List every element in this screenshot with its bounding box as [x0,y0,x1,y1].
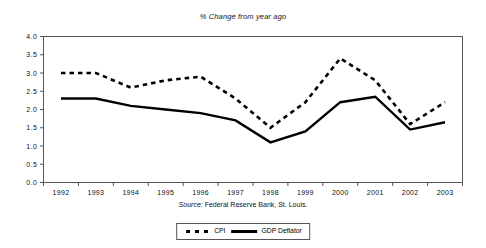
y-axis-tick-label: 2.5 [26,88,37,95]
plot-area: 0.00.51.01.52.02.53.03.54.01992199319941… [0,0,486,200]
x-axis-tick-label: 1992 [53,189,70,196]
x-axis-tick-label: 1995 [157,189,174,196]
legend-label-cpi: CPI [214,228,225,235]
y-axis-tick-label: 3.0 [26,70,37,77]
y-axis-tick-label: 3.5 [26,51,37,58]
source-label: Source: [179,201,203,208]
y-axis-tick-label: 0.5 [26,161,37,168]
legend-label-gdp-deflator: GDP Deflator [262,228,302,235]
x-axis-tick-label: 2002 [402,189,419,196]
x-axis-tick-label: 2000 [332,189,349,196]
source-note: Source: Federal Reserve Bank, St. Louis. [0,201,486,208]
dashed-line-swatch-icon [184,230,210,233]
y-axis-tick-label: 4.0 [26,33,37,40]
legend-entry-cpi: CPI [184,228,225,235]
y-axis-tick-label: 2.0 [26,106,37,113]
x-axis-tick-label: 2003 [437,189,454,196]
legend-entry-gdp-deflator: GDP Deflator [232,228,302,235]
solid-line-swatch-icon [232,230,258,233]
chart-figure: % Change from year ago 0.00.51.01.52.02.… [0,0,486,248]
x-axis-tick-label: 2001 [367,189,384,196]
x-axis-tick-label: 1996 [192,189,209,196]
y-axis-tick-label: 1.5 [26,124,37,131]
chart-legend: CPI GDP Deflator [176,223,310,240]
y-axis-tick-label: 0.0 [26,179,37,186]
x-axis-tick-label: 1997 [227,189,244,196]
series-line-cpi [61,58,445,127]
x-axis-tick-label: 1999 [297,189,314,196]
y-axis-tick-label: 1.0 [26,143,37,150]
x-axis-tick-label: 1998 [262,189,279,196]
x-axis-tick-label: 1993 [87,189,104,196]
x-axis-tick-label: 1994 [122,189,139,196]
series-line-gdp-deflator [61,97,445,143]
source-text: Federal Reserve Bank, St. Louis. [203,201,308,208]
